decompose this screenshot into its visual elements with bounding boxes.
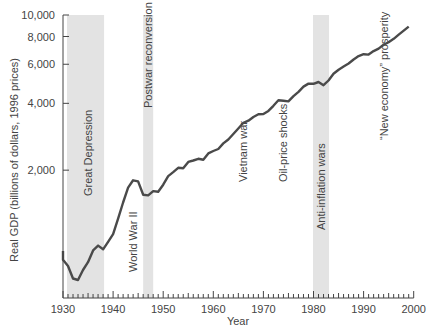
annotation-label: Postwar reconversion [142,2,154,108]
gdp-chart: Great DepressionWorld War IIPostwar reco… [0,0,431,332]
gdp-line [63,27,409,280]
y-tick-label: 4,000 [27,97,55,109]
annotation-label: Oil-price shocks [277,103,289,182]
y-tick-label: 8,000 [27,31,55,43]
annotation-label: Vietnam war [237,121,249,182]
period-annotations: Great DepressionWorld War IIPostwar reco… [82,2,390,272]
x-tick-label: 1940 [101,303,125,315]
x-tick-label: 2000 [401,303,425,315]
x-tick-label: 1950 [151,303,175,315]
annotation-label: “New economy” prosperity [378,11,390,140]
x-tick-label: 1980 [301,303,325,315]
x-axis-title: Year [227,315,250,327]
x-tick-label: 1970 [251,303,275,315]
x-tick-label: 1960 [201,303,225,315]
annotation-label: World War II [127,211,139,272]
y-axis-title: Real GDP (billions of dollars, 1996 pric… [8,58,20,262]
x-tick-label: 1990 [351,303,375,315]
annotation-label: Great Depression [82,110,94,196]
y-tick-label: 2,000 [27,164,55,176]
y-tick-label: 10,000 [21,9,55,21]
y-tick-label: 6,000 [27,58,55,70]
annotation-label: Anti-inflation wars [315,143,327,230]
shaded-periods [67,15,329,298]
x-tick-label: 1930 [51,303,75,315]
